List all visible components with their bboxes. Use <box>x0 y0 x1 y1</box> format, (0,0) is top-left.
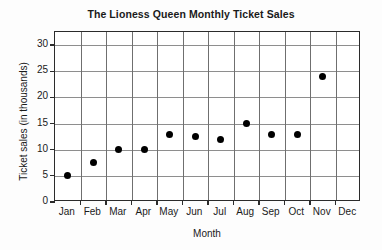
chart-title: The Lioness Queen Monthly Ticket Sales <box>0 8 382 20</box>
x-tick-mark-1 <box>80 200 81 205</box>
x-tick-mark-11 <box>335 200 336 205</box>
x-tick-mark-4 <box>156 200 157 205</box>
y-tick-label-15: 15 <box>8 118 48 128</box>
x-tick-label-dec: Dec <box>327 206 367 218</box>
x-axis-title: Month <box>54 228 360 239</box>
y-tick-label-0: 0 <box>8 196 48 206</box>
data-point-mar <box>115 146 122 153</box>
x-tick-mark-7 <box>233 200 234 205</box>
gridline-y-20 <box>55 97 359 98</box>
data-point-oct <box>294 131 301 138</box>
y-tick-mark-5 <box>50 175 55 176</box>
gridline-y-15 <box>55 124 359 125</box>
y-tick-mark-10 <box>50 149 55 150</box>
gridline-y-25 <box>55 71 359 72</box>
gridline-y-10 <box>55 150 359 151</box>
gridline-y-30 <box>55 45 359 46</box>
x-tick-mark-9 <box>284 200 285 205</box>
y-tick-mark-0 <box>50 201 55 202</box>
y-tick-label-30: 30 <box>8 39 48 49</box>
data-point-feb <box>90 159 97 166</box>
y-tick-label-25: 25 <box>8 65 48 75</box>
y-tick-mark-15 <box>50 123 55 124</box>
data-point-may <box>166 131 173 138</box>
y-tick-label-5: 5 <box>8 170 48 180</box>
gridline-x-2 <box>106 32 107 200</box>
data-point-aug <box>243 120 250 127</box>
plot-area <box>54 31 360 201</box>
y-tick-mark-20 <box>50 97 55 98</box>
x-tick-mark-3 <box>131 200 132 205</box>
gridline-x-4 <box>157 32 158 200</box>
gridline-x-7 <box>234 32 235 200</box>
x-tick-mark-5 <box>182 200 183 205</box>
data-point-jun <box>192 133 199 140</box>
x-tick-mark-10 <box>309 200 310 205</box>
gridline-x-1 <box>81 32 82 200</box>
y-tick-mark-30 <box>50 44 55 45</box>
data-point-jul <box>217 136 224 143</box>
gridline-x-9 <box>285 32 286 200</box>
gridline-x-3 <box>132 32 133 200</box>
y-tick-mark-25 <box>50 71 55 72</box>
gridline-x-11 <box>336 32 337 200</box>
gridline-x-6 <box>208 32 209 200</box>
data-point-sep <box>268 131 275 138</box>
y-tick-label-20: 20 <box>8 91 48 101</box>
chart-figure: The Lioness Queen Monthly Ticket Sales T… <box>0 0 382 250</box>
x-axis-tick-labels: JanFebMarAprMayJunJulAugSepOctNovDec <box>54 206 360 222</box>
gridline-x-8 <box>259 32 260 200</box>
data-point-nov <box>319 73 326 80</box>
gridline-x-10 <box>310 32 311 200</box>
x-tick-mark-8 <box>258 200 259 205</box>
y-tick-label-10: 10 <box>8 144 48 154</box>
data-point-apr <box>141 146 148 153</box>
gridline-y-5 <box>55 176 359 177</box>
gridline-x-5 <box>183 32 184 200</box>
data-point-jan <box>64 172 71 179</box>
x-tick-mark-6 <box>207 200 208 205</box>
x-tick-mark-2 <box>105 200 106 205</box>
y-axis-tick-labels: 051015202530 <box>8 31 48 201</box>
